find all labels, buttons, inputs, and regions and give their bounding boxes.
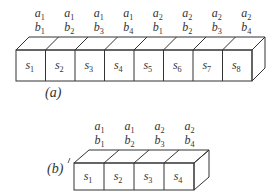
top-divider [223, 37, 236, 50]
top-divider [46, 37, 59, 50]
index-b-label: b3 [212, 20, 222, 36]
index-b-label: b2 [182, 20, 192, 36]
cell-label: s3 [144, 169, 153, 185]
cell-label: s5 [143, 58, 152, 74]
cell-label: s4 [114, 58, 123, 74]
cell-label: s6 [173, 58, 182, 74]
index-b-label: b4 [123, 20, 133, 36]
tick-mark [68, 158, 70, 163]
index-b-label: b2 [64, 20, 74, 36]
cell-label: s3 [84, 58, 93, 74]
top-divider [134, 150, 149, 163]
label-a: (a) [45, 85, 62, 101]
cell-label: s1 [84, 169, 93, 185]
array-diagram: s1a1b1s2a1b2s3a1b3s4a1b4s5a2b1s6a2b2s7a2… [0, 0, 277, 192]
cell-label: s2 [55, 58, 64, 74]
top-divider [164, 37, 177, 50]
index-b-label: b1 [94, 133, 104, 149]
side-face [252, 37, 265, 81]
top-divider [104, 150, 119, 163]
top-divider [134, 37, 147, 50]
cell-label: s1 [25, 58, 34, 74]
cell-label: s7 [202, 58, 211, 74]
label-b: (b) [47, 161, 64, 177]
index-b-label: b4 [184, 133, 194, 149]
side-face [194, 150, 209, 190]
index-b-label: b2 [124, 133, 134, 149]
index-b-label: b3 [94, 20, 104, 36]
cell-label: s4 [174, 169, 183, 185]
diagram_b: s1a1b1s2a1b2s3a2b3s4a2b4 [74, 119, 209, 190]
index-b-label: b3 [154, 133, 164, 149]
index-b-label: b1 [153, 20, 163, 36]
top-divider [164, 150, 179, 163]
diagram_a: s1a1b1s2a1b2s3a1b3s4a1b4s5a2b1s6a2b2s7a2… [16, 6, 265, 81]
index-b-label: b1 [35, 20, 45, 36]
top-divider [75, 37, 88, 50]
top-divider [193, 37, 206, 50]
cell-label: s8 [232, 58, 241, 74]
index-b-label: b4 [241, 20, 251, 36]
top-divider [105, 37, 118, 50]
cell-label: s2 [114, 169, 123, 185]
